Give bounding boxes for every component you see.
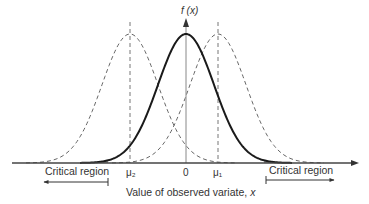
x-axis-arrowhead	[351, 160, 359, 166]
center-tick-label: 0	[183, 167, 189, 178]
critical-region-left-label: Critical region	[45, 165, 109, 177]
y-axis-arrowhead	[183, 18, 189, 27]
x-axis-label-text: Value of observed variate,	[126, 186, 250, 198]
y-axis-label: f (x)	[181, 5, 198, 16]
x-variable: x	[249, 186, 256, 198]
x-axis-label: Value of observed variate, x	[126, 186, 256, 198]
mu1-label: μ₁	[213, 167, 223, 178]
critical-region-right-label: Critical region	[269, 164, 333, 176]
normal-distributions-diagram: f (x) 0 μ₂ μ₁ Critical region Critical r…	[0, 0, 369, 204]
mu2-label: μ₂	[126, 167, 136, 178]
